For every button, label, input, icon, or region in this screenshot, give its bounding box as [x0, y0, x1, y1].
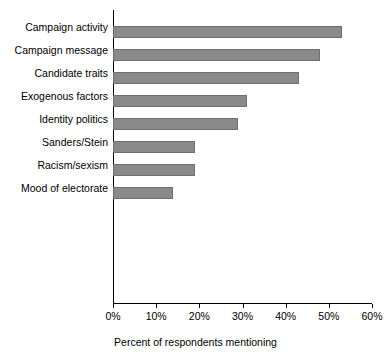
bar — [113, 164, 195, 176]
value-axis-tick-mark — [372, 304, 373, 308]
bar-row — [113, 90, 372, 113]
bar-row — [113, 182, 372, 205]
value-axis-tick-label: 0% — [93, 310, 133, 323]
bar-row — [113, 44, 372, 67]
category-tick-label: Racism/sexism — [0, 159, 108, 171]
value-axis-tick-mark — [243, 304, 244, 308]
value-axis-tick-label: 50% — [309, 310, 349, 323]
value-axis-tick-label: 10% — [136, 310, 176, 323]
category-tick-label: Candidate traits — [0, 67, 108, 79]
value-axis-tick-label: 60% — [352, 310, 391, 323]
bar-row — [113, 21, 372, 44]
bar — [113, 141, 195, 153]
value-axis-tick-mark — [286, 304, 287, 308]
value-axis-tick-mark — [156, 304, 157, 308]
category-tick-label: Campaign message — [0, 44, 108, 56]
bar-row — [113, 113, 372, 136]
bar-row — [113, 136, 372, 159]
category-tick-label: Identity politics — [0, 113, 108, 125]
x-axis-title: Percent of respondents mentioning — [0, 336, 391, 349]
value-axis-tick-mark — [113, 304, 114, 308]
bar — [113, 187, 173, 199]
value-axis-tick-mark — [199, 304, 200, 308]
bar — [113, 95, 247, 107]
value-axis-tick-label: 20% — [179, 310, 219, 323]
value-axis-tick-label: 40% — [266, 310, 306, 323]
category-tick-label: Campaign activity — [0, 21, 108, 33]
category-tick-label: Mood of electorate — [0, 182, 108, 194]
value-axis-tick-mark — [329, 304, 330, 308]
bar — [113, 118, 238, 130]
bar — [113, 72, 299, 84]
category-tick-label: Exogenous factors — [0, 90, 108, 102]
value-axis-tick-label: 30% — [223, 310, 263, 323]
bar — [113, 26, 342, 38]
horizontal-bar-chart: Campaign activityCampaign messageCandida… — [0, 0, 391, 359]
bar-row — [113, 159, 372, 182]
bar-row — [113, 67, 372, 90]
category-tick-label: Sanders/Stein — [0, 136, 108, 148]
bar — [113, 49, 320, 61]
